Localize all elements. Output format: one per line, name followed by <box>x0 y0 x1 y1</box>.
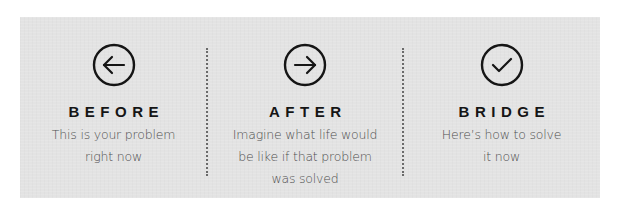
arrow-right-circle-icon <box>283 43 327 87</box>
check-circle-icon <box>480 43 524 87</box>
dotted-divider <box>402 48 404 176</box>
step-heading: BRIDGE <box>453 104 550 119</box>
description-line: right now <box>52 146 175 168</box>
description-line: Here’s how to solve <box>442 124 561 146</box>
description-line: be like if that problem <box>233 146 377 168</box>
step-heading: AFTER <box>264 104 347 119</box>
description-line: it now <box>442 146 561 168</box>
dotted-divider <box>206 48 208 176</box>
step-heading: BEFORE <box>63 104 164 119</box>
step-after: AFTER Imagine what life would be like if… <box>207 17 403 198</box>
description-line: Imagine what life would <box>233 124 377 146</box>
arrow-left-circle-icon <box>92 43 136 87</box>
step-description: Here’s how to solve it now <box>442 124 561 168</box>
step-before: BEFORE This is your problem right now <box>20 17 207 198</box>
step-description: Imagine what life would be like if that … <box>233 124 377 190</box>
description-line: This is your problem <box>52 124 175 146</box>
step-description: This is your problem right now <box>52 124 175 168</box>
description-line: was solved <box>233 168 377 190</box>
before-after-bridge-panel: BEFORE This is your problem right now AF… <box>20 17 600 198</box>
step-bridge: BRIDGE Here’s how to solve it now <box>403 17 600 198</box>
